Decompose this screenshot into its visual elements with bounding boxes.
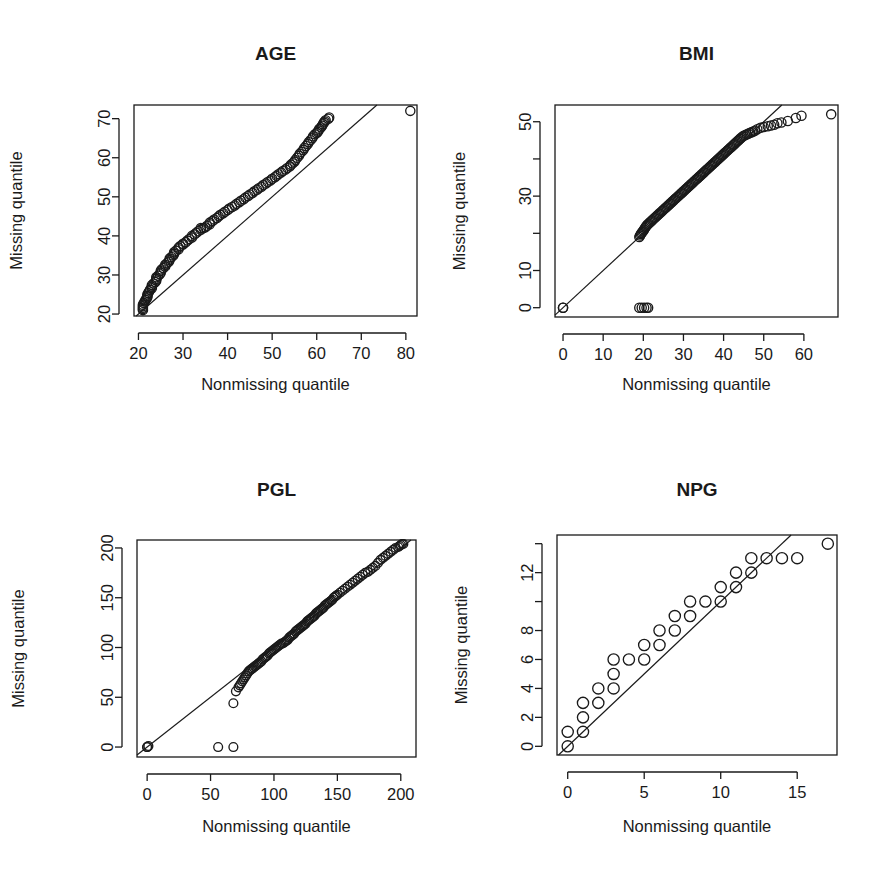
data-point <box>623 654 634 665</box>
plot-frame <box>557 535 837 755</box>
y-tick-label: 200 <box>98 534 116 562</box>
y-tick-label: 4 <box>518 684 536 693</box>
y-tick-label: 20 <box>95 305 113 323</box>
y-tick-label: 50 <box>516 113 534 131</box>
data-point <box>229 743 238 752</box>
x-axis-title: Nonmissing quantile <box>622 375 771 393</box>
data-point <box>792 553 803 564</box>
data-point <box>669 610 680 621</box>
x-tick-label: 20 <box>129 344 147 362</box>
x-tick-label: 5 <box>640 783 649 801</box>
data-point <box>229 699 238 708</box>
reference-line <box>136 105 377 316</box>
x-tick-label: 40 <box>714 345 732 363</box>
data-point <box>406 106 415 115</box>
x-tick-label: 50 <box>755 345 773 363</box>
data-point <box>822 538 833 549</box>
y-axis-title: Missing quantile <box>7 151 25 269</box>
y-axis-title: Missing quantile <box>452 586 470 704</box>
x-tick-label: 0 <box>143 785 152 803</box>
data-point <box>639 654 650 665</box>
panel-npg: NPG0510150246812Nonmissing quantileMissi… <box>443 460 886 880</box>
data-point <box>700 596 711 607</box>
data-point <box>577 712 588 723</box>
chart-npg: NPG0510150246812Nonmissing quantileMissi… <box>443 460 886 880</box>
data-point <box>654 639 665 650</box>
data-point <box>730 567 741 578</box>
x-tick-label: 10 <box>712 783 730 801</box>
figure-root: AGE20304050607080203040506070Nonmissing … <box>0 0 886 896</box>
data-point <box>639 639 650 650</box>
data-point <box>746 553 757 564</box>
data-point <box>791 113 800 122</box>
data-point <box>715 582 726 593</box>
data-point <box>608 683 619 694</box>
y-tick-label: 0 <box>518 742 536 751</box>
y-tick-label: 0 <box>98 742 116 751</box>
panel-pgl: PGL050100150200050100150200Nonmissing qu… <box>0 460 443 880</box>
chart-title: PGL <box>257 479 296 500</box>
data-point <box>562 726 573 737</box>
chart-bmi: BMI01020304050600103050Nonmissing quanti… <box>443 20 886 430</box>
data-point <box>214 743 223 752</box>
x-tick-label: 60 <box>795 345 813 363</box>
y-axis-title: Missing quantile <box>9 589 27 707</box>
chart-title: NPG <box>676 479 717 500</box>
x-tick-label: 40 <box>218 344 236 362</box>
reference-line <box>559 535 792 755</box>
y-tick-label: 40 <box>95 227 113 245</box>
chart-title: BMI <box>679 43 714 64</box>
x-axis-title: Nonmissing quantile <box>623 817 772 835</box>
data-points <box>138 106 415 314</box>
data-points <box>558 110 835 313</box>
y-tick-label: 60 <box>95 149 113 167</box>
plot-frame <box>134 105 417 316</box>
x-tick-label: 50 <box>201 785 219 803</box>
x-tick-label: 20 <box>634 345 652 363</box>
data-point <box>776 553 787 564</box>
x-tick-label: 100 <box>260 785 288 803</box>
x-tick-label: 15 <box>788 783 806 801</box>
y-tick-label: 50 <box>95 188 113 206</box>
data-point <box>797 111 806 120</box>
data-point <box>685 610 696 621</box>
y-tick-label: 0 <box>516 303 534 312</box>
x-tick-label: 150 <box>324 785 352 803</box>
data-point <box>608 668 619 679</box>
data-point <box>577 697 588 708</box>
x-tick-label: 30 <box>174 344 192 362</box>
y-tick-label: 100 <box>98 634 116 662</box>
x-tick-label: 50 <box>263 344 281 362</box>
x-tick-label: 60 <box>308 344 326 362</box>
x-tick-label: 80 <box>397 344 415 362</box>
x-tick-label: 70 <box>352 344 370 362</box>
data-point <box>593 683 604 694</box>
y-axis-title: Missing quantile <box>450 152 468 270</box>
y-tick-label: 50 <box>98 688 116 706</box>
y-tick-label: 30 <box>516 187 534 205</box>
y-tick-label: 30 <box>95 266 113 284</box>
x-axis-title: Nonmissing quantile <box>201 375 350 393</box>
x-tick-label: 0 <box>558 345 567 363</box>
plot-frame <box>555 105 838 317</box>
data-point <box>669 625 680 636</box>
x-tick-label: 30 <box>674 345 692 363</box>
y-tick-label: 12 <box>518 563 536 581</box>
y-tick-label: 2 <box>518 713 536 722</box>
data-point <box>593 697 604 708</box>
data-point <box>685 596 696 607</box>
data-point <box>654 625 665 636</box>
chart-age: AGE20304050607080203040506070Nonmissing … <box>0 20 443 430</box>
x-tick-label: 10 <box>594 345 612 363</box>
panel-age: AGE20304050607080203040506070Nonmissing … <box>0 20 443 430</box>
data-points <box>562 538 833 752</box>
panel-bmi: BMI01020304050600103050Nonmissing quanti… <box>443 20 886 430</box>
x-tick-label: 0 <box>563 783 572 801</box>
y-tick-label: 10 <box>516 261 534 279</box>
data-point <box>608 654 619 665</box>
y-tick-label: 150 <box>98 584 116 612</box>
y-tick-label: 70 <box>95 109 113 127</box>
y-tick-label: 6 <box>518 655 536 664</box>
y-tick-label: 8 <box>518 626 536 635</box>
chart-pgl: PGL050100150200050100150200Nonmissing qu… <box>0 460 443 880</box>
